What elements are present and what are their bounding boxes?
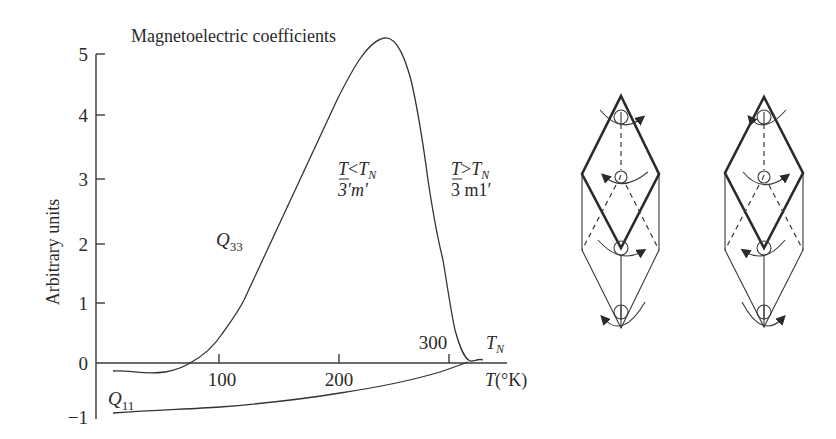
spin-structure-right xyxy=(725,97,803,327)
svg-text:4: 4 xyxy=(79,105,89,126)
x-axis-label: T(°K) xyxy=(485,370,527,391)
svg-text:−1: −1 xyxy=(68,407,88,428)
svg-text:2: 2 xyxy=(79,234,89,255)
svg-text:5: 5 xyxy=(79,44,89,65)
x-tick-labels: 100 200 300 xyxy=(208,332,448,390)
svg-text:100: 100 xyxy=(208,369,237,390)
q33-label: Q33 xyxy=(216,229,243,254)
chart: Magnetoelectric coefficients 5 4 3 2 1 0… xyxy=(43,26,527,428)
spin-structure-left xyxy=(582,96,659,328)
x-ticks xyxy=(219,354,449,363)
chart-title: Magnetoelectric coefficients xyxy=(131,26,336,46)
q11-label: Q11 xyxy=(108,388,134,413)
svg-text:1: 1 xyxy=(79,293,89,314)
q33-curve xyxy=(113,38,483,373)
y-tick-labels: 5 4 3 2 1 0 −1 xyxy=(68,44,89,428)
svg-text:0: 0 xyxy=(79,353,89,374)
below-neel-annotation: T<TN 3′m′ xyxy=(337,159,377,200)
magnetoelectric-figure: Magnetoelectric coefficients 5 4 3 2 1 0… xyxy=(0,0,836,439)
svg-text:200: 200 xyxy=(325,369,354,390)
neel-temperature-label: TN xyxy=(486,333,505,356)
svg-text:3′m′: 3′m′ xyxy=(337,180,369,200)
svg-text:300: 300 xyxy=(419,332,448,353)
svg-text:3: 3 xyxy=(79,169,89,190)
y-ticks xyxy=(96,54,105,303)
above-neel-annotation: T>TN 3 m1′ xyxy=(451,159,492,200)
svg-text:3 m1′: 3 m1′ xyxy=(451,180,492,200)
y-axis-label: Arbitrary units xyxy=(43,199,63,305)
q11-curve xyxy=(113,362,468,413)
